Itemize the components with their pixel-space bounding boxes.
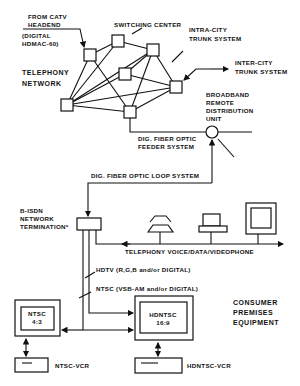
ntsc-tv-label-1: NTSC xyxy=(28,310,46,317)
intra-city-pointer xyxy=(172,51,183,62)
feeder-label-1: DIG. FIBER OPTIC xyxy=(138,135,197,142)
switching-pointer xyxy=(132,28,142,34)
node xyxy=(61,99,73,111)
inter-city-label-2: TRUNK SYSTEM xyxy=(235,68,287,75)
feeder-line xyxy=(130,118,206,132)
switching-center-label: SWITCHING CENTER xyxy=(114,21,182,28)
node xyxy=(84,49,96,61)
termination-label-3: TERMINATION* xyxy=(20,223,69,230)
cpe-label-1: CONSUMER xyxy=(233,299,278,306)
inter-city-arrow-in xyxy=(184,69,210,80)
remote-unit-label-1: BROADBAND xyxy=(206,91,249,98)
node xyxy=(119,68,131,80)
telephone-icon xyxy=(148,216,173,244)
switching-nodes xyxy=(61,35,182,118)
catv-label-2: HEADEND xyxy=(28,21,61,28)
hdntsc-tv-label-2: 16:9 xyxy=(156,319,170,326)
termination-label-1: B-ISDN xyxy=(20,207,43,214)
telephony-network-label-2: NETWORK xyxy=(22,80,62,87)
network-termination-box xyxy=(77,218,101,230)
telephony-network-label-1: TELEPHONY xyxy=(22,69,69,76)
ntsc-vcr xyxy=(15,358,48,372)
ntsc-signal-label: NTSC (VSB-AM and/or DIGITAL) xyxy=(96,285,198,292)
ntsc-line-to-hdntsc xyxy=(83,230,133,330)
intra-city-label-1: INTRA-CITY xyxy=(189,26,228,33)
remote-unit-label-3: DISTRIBUTION xyxy=(206,107,254,114)
hdtv-slash xyxy=(85,272,95,278)
remote-distribution-unit xyxy=(206,126,218,138)
data-terminal-icon xyxy=(199,214,227,244)
catv-label-4: HDMAC-60) xyxy=(22,40,59,47)
feeder-label-2: FEEDER SYSTEM xyxy=(138,143,194,150)
remote-unit-label-4: UNIT xyxy=(206,115,222,122)
termination-label-2: NETWORK xyxy=(20,215,54,222)
hdntsc-vcr xyxy=(135,358,182,373)
hdtv-signal-label: HDTV (R,G,B and/or DIGITAL) xyxy=(96,266,191,273)
hdntsc-vcr-label: HDNTSC-VCR xyxy=(187,362,231,369)
telephony-bus-label: TELEPHONY VOICE/DATA/VIDEOPHONE xyxy=(125,248,254,255)
loop-label: DIG. FIBER OPTIC LOOP SYSTEM xyxy=(91,172,199,179)
ntsc-tv-label-2: 4:3 xyxy=(32,318,42,325)
cpe-label-2: PREMISES xyxy=(233,309,273,316)
remote-unit-label-2: REMOTE xyxy=(206,99,234,106)
hdntsc-tv-label-1: HDNTSC xyxy=(149,311,177,318)
catv-label-1: FROM CATV xyxy=(28,13,68,20)
node xyxy=(112,35,124,47)
cpe-label-3: EQUIPMENT xyxy=(233,319,279,327)
loop-line xyxy=(88,183,212,216)
ntsc-vcr-label: NTSC-VCR xyxy=(55,362,90,369)
videophone-icon xyxy=(246,203,276,244)
intra-city-label-2: TRUNK SYSTEM xyxy=(189,35,241,42)
inter-city-label-1: INTER-CITY xyxy=(235,59,273,66)
catv-label-3: (DIGITAL xyxy=(22,32,51,39)
remote-branch-line xyxy=(218,139,234,157)
node xyxy=(170,81,182,93)
b-isdn-diagram: FROM CATV HEADEND (DIGITAL HDMAC-60) TEL… xyxy=(0,0,300,386)
node xyxy=(124,106,136,118)
node xyxy=(147,44,159,56)
